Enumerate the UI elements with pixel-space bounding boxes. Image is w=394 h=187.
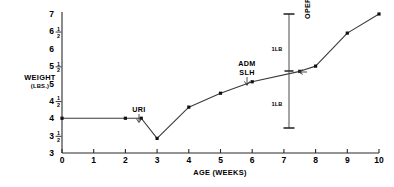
annotation-operation-label: OPERATION — [303, 0, 312, 19]
annotation-uri-label: URI — [132, 105, 145, 114]
y-axis-title: WEIGHT — [24, 73, 56, 82]
x-axis-title: AGE (WEEKS) — [193, 168, 247, 177]
y-tick-label-8: 7 — [49, 9, 54, 19]
x-tick-label-0: 0 — [60, 155, 65, 165]
data-point-0 — [60, 117, 63, 120]
y-tick-fraction-numerator-3: 1 — [57, 95, 60, 101]
data-point-4 — [187, 106, 190, 109]
x-tick-label-6: 6 — [250, 155, 255, 165]
y-axis-tick-labels: 33124412551266127 — [49, 9, 61, 158]
chart-plot-area: 012345678910 33124412551266127 WEIGHT (L… — [0, 0, 394, 187]
data-point-5 — [219, 92, 222, 95]
data-point-9 — [346, 32, 349, 35]
annotation-adm-label: ADM — [238, 59, 255, 68]
y-tick-fraction-denominator-3: 2 — [57, 102, 60, 108]
x-tick-label-5: 5 — [218, 155, 223, 165]
data-point-6 — [251, 80, 254, 83]
y-tick-label-7: 6 — [49, 26, 54, 36]
weight-data-points — [60, 12, 380, 140]
annotation-slh-label: SLH — [239, 68, 254, 77]
y-tick-label-3: 4 — [49, 96, 54, 106]
y-tick-group-7: 612 — [49, 26, 61, 39]
measure-lower-label: 1LB — [271, 101, 282, 107]
y-tick-fraction-numerator-1: 1 — [57, 130, 60, 136]
y-tick-group-3: 412 — [49, 95, 61, 108]
annotation-operation: OPERATION — [299, 0, 312, 74]
weight-age-chart: 012345678910 33124412551266127 WEIGHT (L… — [0, 0, 394, 187]
x-tick-label-7: 7 — [282, 155, 287, 165]
x-tick-label-4: 4 — [186, 155, 191, 165]
weight-data-line — [62, 14, 379, 138]
y-tick-fraction-denominator-7: 2 — [57, 33, 60, 39]
x-tick-label-9: 9 — [345, 155, 350, 165]
x-axis-tick-labels: 012345678910 — [60, 155, 384, 165]
y-tick-label-2: 4 — [49, 113, 54, 123]
y-tick-fraction-numerator-7: 1 — [57, 26, 60, 32]
data-point-1 — [124, 117, 127, 120]
x-tick-label-1: 1 — [91, 155, 96, 165]
y-tick-group-5: 512 — [49, 61, 61, 74]
data-point-3 — [156, 137, 159, 140]
x-tick-label-3: 3 — [155, 155, 160, 165]
x-tick-label-2: 2 — [123, 155, 128, 165]
y-tick-group-2: 4 — [49, 113, 54, 123]
y-tick-fraction-denominator-1: 2 — [57, 137, 60, 143]
data-point-10 — [377, 12, 380, 15]
y-axis-subtitle: (LBS.) — [31, 83, 49, 89]
x-tick-label-10: 10 — [374, 155, 384, 165]
y-tick-fraction-denominator-5: 2 — [57, 67, 60, 73]
y-tick-label-6: 6 — [49, 44, 54, 54]
y-tick-label-1: 3 — [49, 131, 54, 141]
y-tick-label-0: 3 — [49, 148, 54, 158]
data-point-8 — [314, 65, 317, 68]
y-tick-fraction-numerator-5: 1 — [57, 61, 60, 67]
y-tick-label-5: 5 — [49, 61, 54, 71]
y-tick-group-0: 3 — [49, 148, 54, 158]
y-tick-group-6: 6 — [49, 44, 54, 54]
annotation-measure-upper: 1LB — [271, 14, 294, 71]
y-tick-group-8: 7 — [49, 9, 54, 19]
x-tick-label-8: 8 — [313, 155, 318, 165]
annotation-uri: URI — [132, 105, 145, 123]
x-axis-ticks — [62, 149, 379, 153]
annotation-measure-lower: 1LB — [271, 71, 294, 128]
y-tick-group-1: 312 — [49, 130, 61, 143]
measure-upper-label: 1LB — [271, 46, 282, 52]
